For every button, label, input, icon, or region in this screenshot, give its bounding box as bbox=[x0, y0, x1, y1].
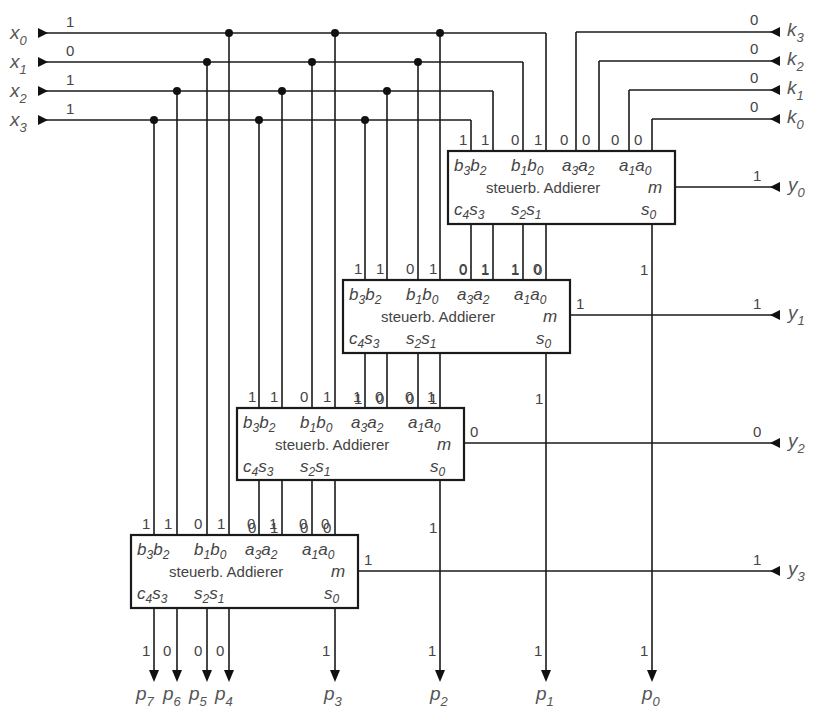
adder-0: 1 1 0 1 0 0 0 0 b3b2 b1b0 a3a2 a1a0 steu… bbox=[448, 131, 675, 278]
svg-text:1: 1 bbox=[534, 131, 542, 148]
adder-3: 1 1 0 1 0 1 0 0 b3b2 b1b0 a3a2 a1a0 steu… bbox=[131, 515, 358, 608]
svg-text:m: m bbox=[648, 178, 662, 197]
y1-value: 1 bbox=[753, 295, 761, 312]
k3-value: 0 bbox=[750, 11, 758, 28]
k-input-lines bbox=[576, 32, 772, 151]
x3-value: 1 bbox=[66, 100, 74, 117]
svg-text:1: 1 bbox=[269, 515, 277, 532]
svg-text:0: 0 bbox=[299, 515, 307, 532]
adder-3-title: steuerb. Addierer bbox=[169, 563, 283, 580]
y2-value: 0 bbox=[753, 423, 761, 440]
k0-label: k0 bbox=[787, 106, 805, 132]
x-arrowheads bbox=[38, 28, 48, 125]
svg-text:0: 0 bbox=[247, 515, 255, 532]
svg-text:1: 1 bbox=[164, 515, 172, 532]
svg-text:1: 1 bbox=[354, 260, 362, 277]
junction-dots bbox=[150, 29, 444, 124]
svg-text:m: m bbox=[543, 307, 557, 326]
p2-value: 1 bbox=[428, 642, 436, 659]
k2-label: k2 bbox=[787, 48, 805, 74]
adder-1-title: steuerb. Addierer bbox=[381, 308, 495, 325]
k1-value: 0 bbox=[750, 69, 758, 86]
p0-label: p0 bbox=[641, 683, 661, 709]
svg-text:0: 0 bbox=[582, 131, 590, 148]
p4-label: p4 bbox=[214, 683, 233, 709]
svg-text:0: 0 bbox=[560, 131, 568, 148]
p1-value: 1 bbox=[534, 642, 542, 659]
y3-m-value: 1 bbox=[364, 551, 372, 568]
y0-label: y0 bbox=[786, 174, 806, 200]
svg-text:1: 1 bbox=[270, 388, 278, 405]
y-arrowheads bbox=[770, 182, 780, 576]
x3-label: x3 bbox=[9, 109, 28, 135]
p1-label: p1 bbox=[535, 683, 554, 709]
svg-text:0: 0 bbox=[405, 388, 413, 405]
adder-interconnects bbox=[259, 224, 546, 535]
svg-text:0: 0 bbox=[321, 515, 329, 532]
y3-value: 1 bbox=[753, 551, 761, 568]
p4-value: 0 bbox=[216, 642, 224, 659]
k2-value: 0 bbox=[750, 40, 758, 57]
adder-0-input-values: 1 1 0 1 0 0 0 0 bbox=[459, 131, 642, 148]
svg-text:0: 0 bbox=[300, 388, 308, 405]
svg-text:1: 1 bbox=[481, 260, 489, 277]
svg-text:1: 1 bbox=[640, 261, 648, 278]
svg-text:0: 0 bbox=[375, 388, 383, 405]
svg-text:1: 1 bbox=[429, 260, 437, 277]
svg-text:0: 0 bbox=[459, 260, 467, 277]
adder-0-title: steuerb. Addierer bbox=[486, 179, 600, 196]
svg-text:0: 0 bbox=[194, 515, 202, 532]
k1-label: k1 bbox=[787, 77, 804, 103]
x0-label: x0 bbox=[9, 22, 28, 48]
svg-text:1: 1 bbox=[535, 390, 543, 407]
p7-label: p7 bbox=[135, 683, 155, 709]
y-control-lines bbox=[358, 187, 772, 571]
adder-1: 1 1 0 1 0 1 1 0 b3b2 b1b0 a3a2 a1a0 steu… bbox=[343, 260, 570, 407]
y2-label: y2 bbox=[786, 430, 806, 456]
p0-value: 1 bbox=[640, 642, 648, 659]
adder-1-input-values: 1 1 0 1 0 1 1 0 bbox=[354, 260, 541, 277]
svg-text:0: 0 bbox=[406, 260, 414, 277]
svg-text:1: 1 bbox=[217, 515, 225, 532]
svg-text:m: m bbox=[437, 435, 451, 454]
svg-text:1: 1 bbox=[511, 260, 519, 277]
adder-2: 1 1 0 1 1 0 0 1 b3b2 b1b0 a3a2 a1a0 steu… bbox=[237, 388, 464, 536]
svg-text:0: 0 bbox=[533, 260, 541, 277]
x1-value: 0 bbox=[66, 42, 74, 59]
y1-label: y1 bbox=[786, 302, 805, 328]
y2-m-value: 0 bbox=[470, 423, 478, 440]
svg-text:1: 1 bbox=[429, 519, 437, 536]
svg-text:1: 1 bbox=[459, 131, 467, 148]
p6-value: 0 bbox=[163, 642, 171, 659]
x0-value: 1 bbox=[66, 13, 74, 30]
x2-label: x2 bbox=[9, 80, 28, 106]
p5-value: 0 bbox=[194, 642, 202, 659]
svg-text:0: 0 bbox=[611, 131, 619, 148]
p2-label: p2 bbox=[429, 683, 449, 709]
k3-label: k3 bbox=[787, 19, 805, 45]
svg-text:1: 1 bbox=[376, 260, 384, 277]
p-output-values: 1 0 0 0 1 1 1 1 bbox=[142, 642, 648, 659]
y0-value: 1 bbox=[753, 167, 761, 184]
y1-m-value: 1 bbox=[576, 295, 584, 312]
p-arrowheads bbox=[149, 670, 657, 682]
p7-value: 1 bbox=[142, 642, 150, 659]
k0-value: 0 bbox=[750, 98, 758, 115]
p5-label: p5 bbox=[188, 683, 208, 709]
multiplier-diagram: x0 x1 x2 x3 1 0 1 1 bbox=[0, 0, 826, 720]
svg-text:1: 1 bbox=[481, 131, 489, 148]
svg-text:1: 1 bbox=[248, 388, 256, 405]
x2-value: 1 bbox=[66, 71, 74, 88]
p6-label: p6 bbox=[162, 683, 182, 709]
adder-2-input-values: 1 1 0 1 1 0 0 1 bbox=[248, 388, 435, 405]
x-input-lines bbox=[46, 33, 546, 151]
p3-label: p3 bbox=[323, 683, 343, 709]
svg-text:0: 0 bbox=[511, 131, 519, 148]
svg-text:m: m bbox=[331, 562, 345, 581]
svg-text:1: 1 bbox=[323, 388, 331, 405]
p-output-labels: p7 p6 p5 p4 p3 p2 p1 p0 bbox=[135, 683, 661, 709]
p3-value: 1 bbox=[322, 642, 330, 659]
adder-3-input-values: 1 1 0 1 0 1 0 0 bbox=[142, 515, 329, 532]
svg-text:1: 1 bbox=[142, 515, 150, 532]
y3-label: y3 bbox=[786, 558, 806, 584]
